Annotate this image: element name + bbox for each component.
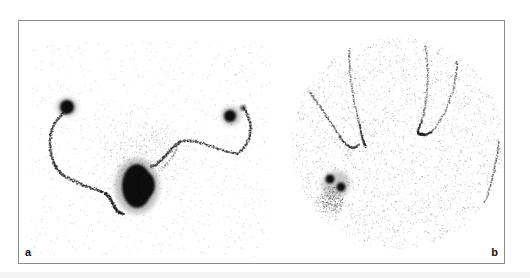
panel-b-background-noise	[292, 37, 504, 249]
panel-label-a: a	[25, 247, 31, 258]
panel-a-image	[31, 41, 271, 257]
panel-a-background-noise	[31, 41, 271, 257]
panel-b-image	[292, 37, 504, 249]
panel-b-finger-outlines	[301, 45, 500, 242]
page-bottom-strip	[0, 272, 530, 278]
panel-b-hot-spots	[322, 171, 350, 197]
scintigraphy-images	[19, 21, 506, 265]
panel-a-hot-spots	[57, 98, 246, 214]
figure-frame: a b	[18, 20, 505, 264]
panel-label-b: b	[491, 247, 498, 258]
